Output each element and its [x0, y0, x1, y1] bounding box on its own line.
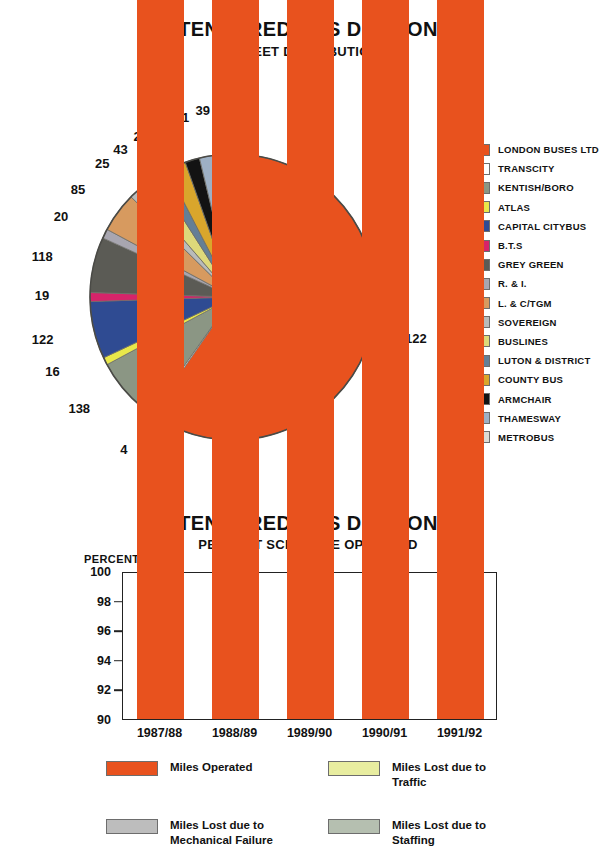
- legend-item-label: ATLAS: [498, 202, 530, 213]
- pie-legend-item[interactable]: COUNTY BUS: [462, 370, 614, 389]
- legend-item-label: TRANSCITY: [498, 163, 555, 174]
- plot-area: [122, 572, 497, 720]
- pie-legend-item[interactable]: LONDON BUSES LTD: [462, 140, 614, 159]
- pie-legend-item[interactable]: ATLAS: [462, 198, 614, 217]
- pie-legend-item[interactable]: R. & I.: [462, 274, 614, 293]
- legend-color-swatch: [106, 761, 158, 776]
- bar-legend-item[interactable]: Miles Lost due to Mechanical Failure: [106, 818, 304, 848]
- pie-data-label: 122: [32, 332, 54, 347]
- bar-segment: [437, 0, 484, 719]
- bar-segment: [137, 0, 184, 719]
- pie-legend-item[interactable]: CAPITAL CITYBUS: [462, 217, 614, 236]
- legend-item-label: B.T.S: [498, 240, 522, 251]
- pie-legend-item[interactable]: ARMCHAIR: [462, 389, 614, 408]
- stacked-bar: [437, 571, 484, 719]
- legend-item-label: LUTON & DISTRICT: [498, 355, 591, 366]
- legend-item-label: CAPITAL CITYBUS: [498, 221, 586, 232]
- legend-item-label: L. & C/TGM: [498, 298, 552, 309]
- legend-item-label: LONDON BUSES LTD: [498, 144, 599, 155]
- bar-legend-item[interactable]: Miles Operated: [106, 760, 304, 790]
- pie-data-label: 4: [120, 441, 127, 456]
- y-axis-tick-label: 92: [71, 683, 111, 697]
- pie-data-label: 19: [35, 288, 49, 303]
- legend-item-label: Miles Operated: [170, 760, 252, 775]
- pie-data-label: 118: [32, 248, 53, 263]
- legend-item-label: GREY GREEN: [498, 259, 564, 270]
- pie-data-label: 43: [113, 141, 127, 156]
- legend-item-label: BUSLINES: [498, 336, 548, 347]
- pie-data-label: 25: [95, 155, 109, 170]
- x-axis-tick-label: 1991/92: [437, 726, 482, 740]
- y-axis-caption: PERCENT: [84, 553, 139, 565]
- legend-item-label: KENTISH/BORO: [498, 182, 574, 193]
- legend-item-label: R. & I.: [498, 278, 527, 289]
- legend-color-swatch: [328, 819, 380, 834]
- pie-data-label: 85: [71, 182, 85, 197]
- stacked-bar: [362, 571, 409, 719]
- percent-schedule-operated-chart: TENDERED BUS DIVISION PERCENT SCHEDULE O…: [0, 490, 616, 868]
- legend-color-swatch: [328, 761, 380, 776]
- y-axis-tick-label: 100: [71, 565, 111, 579]
- legend-item-label: Miles Lost due to Traffic: [392, 760, 522, 790]
- legend-color-swatch: [106, 819, 158, 834]
- bar-legend: Miles OperatedMiles Lost due to TrafficM…: [106, 760, 526, 848]
- legend-item-label: METROBUS: [498, 432, 554, 443]
- legend-item-label: SOVEREIGN: [498, 317, 557, 328]
- pie-legend-item[interactable]: LUTON & DISTRICT: [462, 351, 614, 370]
- x-axis-tick-label: 1988/89: [212, 726, 257, 740]
- pie-data-label: 39: [196, 103, 210, 118]
- legend-item-label: Miles Lost due to Staffing: [392, 818, 522, 848]
- bar-segment: [287, 0, 334, 719]
- x-axis-tick-label: 1990/91: [362, 726, 407, 740]
- stacked-bar: [287, 571, 334, 719]
- pie-legend-item[interactable]: KENTISH/BORO: [462, 178, 614, 197]
- y-axis-tick-label: 98: [71, 595, 111, 609]
- bar-segment: [212, 0, 259, 719]
- bar-legend-item[interactable]: Miles Lost due to Traffic: [328, 760, 526, 790]
- y-axis-tick-label: 96: [71, 624, 111, 638]
- legend-item-label: ARMCHAIR: [498, 394, 552, 405]
- pie-legend-item[interactable]: THAMESWAY: [462, 409, 614, 428]
- bar-legend-item[interactable]: Miles Lost due to Staffing: [328, 818, 526, 848]
- pie-legend-item[interactable]: TRANSCITY: [462, 159, 614, 178]
- pie-data-label: 20: [54, 208, 68, 223]
- pie-legend: LONDON BUSES LTDTRANSCITYKENTISH/BOROATL…: [462, 140, 614, 447]
- pie-legend-item[interactable]: SOVEREIGN: [462, 313, 614, 332]
- y-axis-tick-label: 90: [71, 713, 111, 727]
- y-axis-tick-label: 94: [71, 654, 111, 668]
- pie-legend-item[interactable]: BUSLINES: [462, 332, 614, 351]
- pie-legend-item[interactable]: GREY GREEN: [462, 255, 614, 274]
- legend-item-label: Miles Lost due to Mechanical Failure: [170, 818, 300, 848]
- pie-data-label: 16: [45, 363, 59, 378]
- x-axis-tick-label: 1987/88: [137, 726, 182, 740]
- pie-legend-item[interactable]: B.T.S: [462, 236, 614, 255]
- legend-item-label: THAMESWAY: [498, 413, 561, 424]
- stacked-bar: [137, 571, 184, 719]
- x-axis-tick-label: 1989/90: [287, 726, 332, 740]
- legend-item-label: COUNTY BUS: [498, 374, 563, 385]
- pie-data-label: 138: [68, 401, 90, 416]
- stacked-bar: [212, 571, 259, 719]
- bar-segment: [362, 0, 409, 719]
- pie-legend-item[interactable]: L. & C/TGM: [462, 294, 614, 313]
- pie-legend-item[interactable]: METROBUS: [462, 428, 614, 447]
